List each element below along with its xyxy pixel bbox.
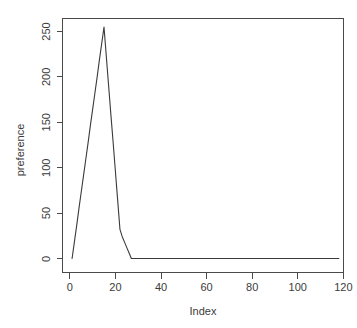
y-tick-label-50: 50	[40, 207, 52, 219]
x-tick-label-20: 20	[109, 281, 121, 293]
x-axis-title: Index	[190, 305, 217, 317]
y-tick-label-250: 250	[40, 22, 52, 40]
y-axis-ticks	[57, 32, 63, 259]
y-tick-label-0: 0	[40, 256, 52, 262]
y-axis-tick-labels: 0 50 100 150 200 250	[40, 22, 52, 262]
x-tick-label-80: 80	[246, 281, 258, 293]
x-tick-label-60: 60	[200, 281, 212, 293]
data-series-line	[72, 27, 339, 259]
x-tick-label-40: 40	[155, 281, 167, 293]
plot-box-frame	[63, 19, 344, 273]
x-axis-ticks	[70, 273, 344, 279]
y-tick-label-150: 150	[40, 113, 52, 131]
y-axis-title: preference	[14, 124, 26, 177]
x-tick-label-120: 120	[334, 281, 352, 293]
line-chart: 0 50 100 150 200 250 0 20 40 60 80 100 1…	[0, 0, 357, 328]
y-tick-label-200: 200	[40, 68, 52, 86]
chart-figure: 0 50 100 150 200 250 0 20 40 60 80 100 1…	[0, 0, 357, 328]
x-tick-label-0: 0	[67, 281, 73, 293]
x-tick-label-100: 100	[289, 281, 307, 293]
x-axis-tick-labels: 0 20 40 60 80 100 120	[67, 281, 353, 293]
y-tick-label-100: 100	[40, 159, 52, 177]
